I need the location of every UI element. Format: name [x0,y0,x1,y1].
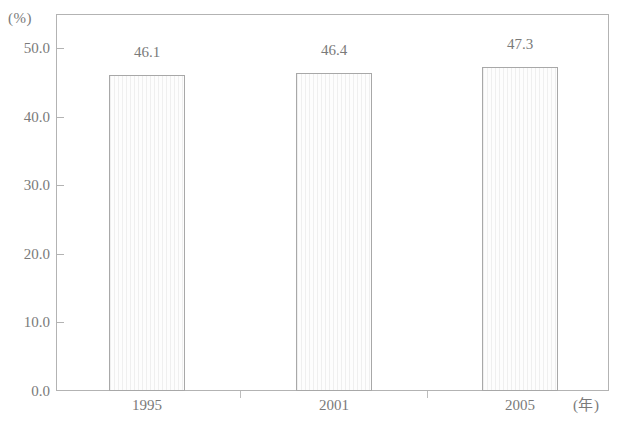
bar-1995 [109,75,185,391]
bar-chart: (%) (年) 0.0 10.0 20.0 30.0 40.0 50.0 46.… [0,0,619,427]
y-tick-label-1: 10.0 [2,315,50,330]
y-tick-label-3: 30.0 [2,178,50,193]
y-tick-mark-1 [56,322,64,323]
bar-value-2001: 46.4 [296,42,372,58]
y-tick-mark-4 [56,117,64,118]
y-tick-label-2: 20.0 [2,247,50,262]
x-category-label-1995: 1995 [109,396,185,414]
y-tick-label-5: 50.0 [2,41,50,56]
y-tick-label-4: 40.0 [2,110,50,125]
bar-value-2005: 47.3 [482,36,558,52]
y-tick-label-0: 0.0 [2,384,50,399]
bar-value-1995: 46.1 [109,44,185,60]
y-tick-mark-3 [56,185,64,186]
x-tick-mark-2 [427,391,428,398]
y-tick-mark-5 [56,48,64,49]
x-tick-mark-1 [240,391,241,398]
x-axis-unit-label: (年) [573,396,600,414]
bar-2005 [482,67,558,391]
y-axis-unit-label: (%) [8,9,32,27]
y-tick-mark-2 [56,254,64,255]
bar-2001 [296,73,372,391]
x-category-label-2001: 2001 [296,396,372,414]
x-category-label-2005: 2005 [482,396,558,414]
